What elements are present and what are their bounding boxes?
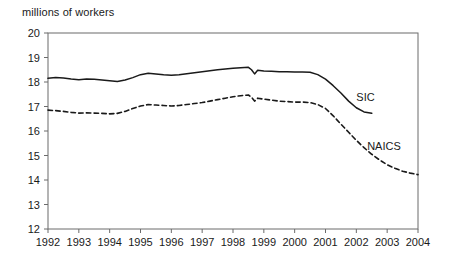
y-tick-label: 17 — [16, 101, 40, 113]
series-line-naics — [48, 95, 418, 175]
y-tick-label: 19 — [16, 52, 40, 64]
chart-container: millions of workers 201918171615141312 1… — [0, 0, 458, 266]
y-tick-label: 20 — [16, 27, 40, 39]
series-line-sic — [48, 67, 372, 113]
series-paths — [48, 67, 418, 174]
y-tick-label: 18 — [16, 76, 40, 88]
y-tick-label: 14 — [16, 174, 40, 186]
y-tick-label: 16 — [16, 125, 40, 137]
series-label-sic: SIC — [356, 91, 374, 103]
y-tick-label: 15 — [16, 150, 40, 162]
series-label-naics: NAICS — [367, 140, 401, 152]
axis-frame — [48, 33, 418, 229]
x-tick-label: 2004 — [398, 236, 438, 248]
tick-marks — [44, 33, 418, 233]
y-tick-label: 12 — [16, 223, 40, 235]
y-tick-label: 13 — [16, 199, 40, 211]
chart-plot-area — [0, 0, 458, 266]
